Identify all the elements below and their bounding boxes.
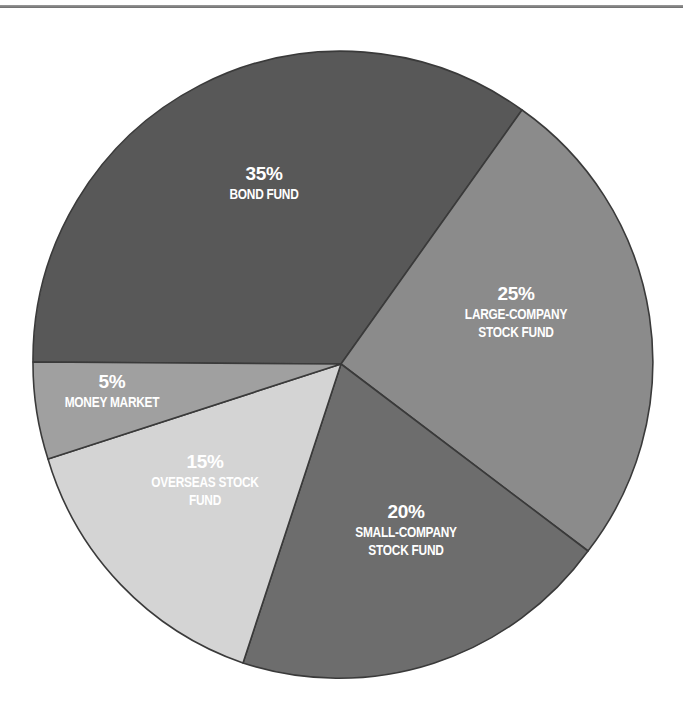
label-overseas-line2: FUND [151,491,258,509]
label-bond-name: BOND FUND [229,185,298,203]
label-large-line1: LARGE-COMPANY [465,305,567,323]
label-money-pct: 5% [56,371,167,393]
pie-chart [0,0,683,721]
label-money-name: MONEY MARKET [65,393,160,411]
label-large-line2: STOCK FUND [465,323,567,341]
label-small-line2: STOCK FUND [355,541,457,559]
label-small-pct: 20% [346,501,466,523]
label-overseas-line1: OVERSEAS STOCK [151,473,258,491]
label-large-company: 25% LARGE-COMPANY STOCK FUND [456,283,576,341]
label-money-market: 5% MONEY MARKET [56,371,167,411]
label-small-company: 20% SMALL-COMPANY STOCK FUND [346,501,466,559]
label-bond-fund: 35% BOND FUND [223,163,304,203]
label-large-pct: 25% [456,283,576,305]
label-overseas: 15% OVERSEAS STOCK FUND [142,451,268,509]
label-bond-pct: 35% [223,163,304,185]
label-small-line1: SMALL-COMPANY [355,523,457,541]
label-overseas-pct: 15% [142,451,268,473]
